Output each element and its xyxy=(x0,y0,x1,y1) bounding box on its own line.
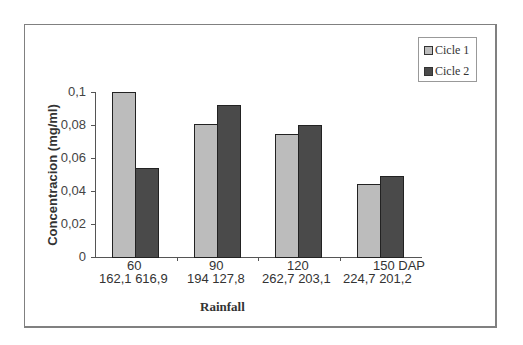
x-tick xyxy=(340,257,341,261)
legend-item-cicle2: Cicle 2 xyxy=(424,64,469,79)
bar-cicle1-120 xyxy=(275,134,299,258)
bar-cicle2-120 xyxy=(298,125,322,258)
bar-cicle2-90 xyxy=(217,105,241,258)
x-category-sublabel: 224,7 201,2 xyxy=(343,271,412,286)
bar-cicle2-150 xyxy=(380,176,404,258)
legend-label: Cicle 2 xyxy=(435,64,469,79)
legend-item-cicle1: Cicle 1 xyxy=(424,43,469,58)
x-category-sublabel: 162,1 616,9 xyxy=(99,271,168,286)
legend-swatch-icon xyxy=(424,46,433,55)
x-category-sublabel: 262,7 203,1 xyxy=(262,271,331,286)
bar-cicle2-60 xyxy=(135,168,159,258)
x-category-sublabel: 194 127,8 xyxy=(187,271,245,286)
y-tick-label: 0,02 xyxy=(36,216,86,231)
legend: Cicle 1 Cicle 2 xyxy=(418,37,477,82)
legend-swatch-icon xyxy=(424,67,433,76)
y-axis xyxy=(95,92,96,258)
x-tick xyxy=(258,257,259,261)
y-tick-label: 0 xyxy=(36,249,86,264)
y-tick-label: 0,1 xyxy=(36,84,86,99)
legend-label: Cicle 1 xyxy=(435,43,469,58)
x-tick xyxy=(177,257,178,261)
y-tick-label: 0,04 xyxy=(36,183,86,198)
bar-cicle1-60 xyxy=(112,92,136,258)
x-axis-title: Rainfall xyxy=(200,299,245,315)
bar-cicle1-90 xyxy=(194,124,218,258)
y-tick-label: 0,06 xyxy=(36,150,86,165)
bar-cicle1-150 xyxy=(357,184,381,258)
y-tick-label: 0,08 xyxy=(36,117,86,132)
